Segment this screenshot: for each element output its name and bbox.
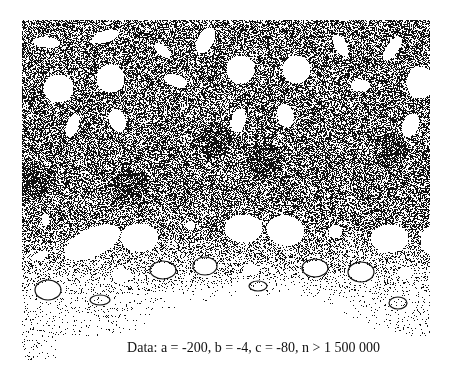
figure-caption: Data: a = -200, b = -4, c = -80, n > 1 5…	[0, 340, 451, 356]
attractor-figure: Data: a = -200, b = -4, c = -80, n > 1 5…	[0, 0, 451, 370]
attractor-plot	[0, 0, 451, 370]
